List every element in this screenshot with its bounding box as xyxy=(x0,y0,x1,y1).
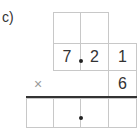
multiply-operator: × xyxy=(34,76,42,92)
digit-cell: 7 xyxy=(53,43,81,71)
carry-cell[interactable] xyxy=(80,12,109,44)
digit-cell: 1 xyxy=(108,43,137,71)
answer-decimal-point-icon xyxy=(79,116,83,120)
answer-cell[interactable] xyxy=(108,98,137,128)
multiplier-cell: 6 xyxy=(108,70,137,98)
answer-cell[interactable] xyxy=(26,98,54,128)
problem-label: c) xyxy=(2,9,14,25)
carry-cell[interactable] xyxy=(53,12,81,44)
answer-cell[interactable] xyxy=(80,98,109,128)
digit-cell: 2 xyxy=(80,43,109,71)
answer-cell[interactable] xyxy=(53,98,81,128)
decimal-point-icon xyxy=(79,59,83,63)
